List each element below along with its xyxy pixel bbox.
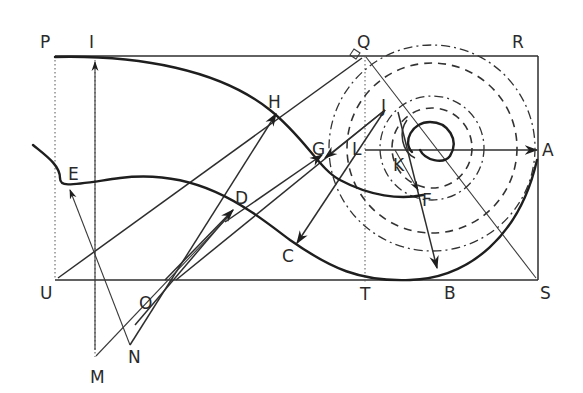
inner-dashed-circle	[392, 108, 472, 188]
label-A: A	[542, 140, 554, 160]
line-UQ	[58, 58, 362, 278]
label-J: J	[380, 96, 386, 116]
frame-rectangle	[55, 56, 538, 280]
label-S: S	[540, 283, 551, 303]
label-R: R	[512, 32, 524, 52]
label-G: G	[312, 139, 325, 159]
arrow-J-C	[297, 110, 385, 243]
diagram-canvas: P I Q R H J G L K A E F D C U O T B S M …	[0, 0, 583, 393]
label-E: E	[68, 164, 79, 184]
label-Q: Q	[357, 32, 370, 52]
label-T: T	[359, 284, 371, 304]
label-P: P	[40, 32, 50, 52]
label-K: K	[393, 155, 405, 175]
arrow-to-D	[165, 210, 233, 280]
label-N: N	[128, 347, 141, 367]
inner-dashdot-circle	[380, 96, 484, 200]
label-M: M	[90, 367, 105, 387]
label-H: H	[268, 92, 281, 112]
arrow-N-E	[70, 190, 130, 345]
label-O: O	[139, 293, 152, 313]
geometric-construction: P I Q R H J G L K A E F D C U O T B S M …	[0, 0, 583, 393]
label-L: L	[352, 139, 362, 159]
label-B: B	[444, 283, 456, 303]
label-U: U	[40, 283, 52, 303]
label-I: I	[89, 32, 94, 52]
outer-dashed-circle	[347, 63, 517, 233]
label-F: F	[422, 190, 432, 210]
label-D: D	[235, 188, 248, 208]
label-C: C	[282, 246, 294, 266]
line-QS	[366, 57, 536, 278]
spiral-arm-upper	[55, 57, 423, 197]
